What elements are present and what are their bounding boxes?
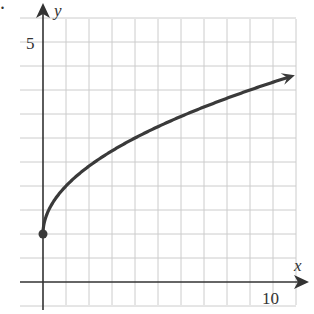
corner-mark: . bbox=[0, 0, 5, 12]
x-tick-10: 10 bbox=[262, 290, 279, 307]
chart-canvas bbox=[0, 0, 314, 314]
start-point-marker bbox=[39, 230, 48, 239]
x-axis-label: x bbox=[294, 257, 302, 274]
y-axis-label: y bbox=[54, 2, 62, 19]
y-tick-5: 5 bbox=[26, 35, 35, 52]
